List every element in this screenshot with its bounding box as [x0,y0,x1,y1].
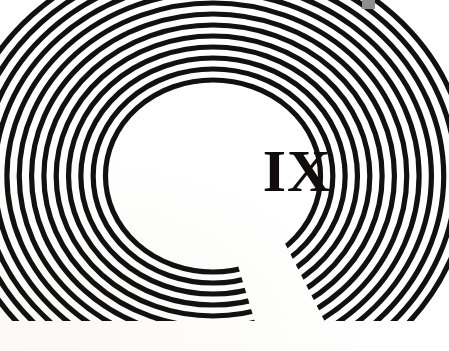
divider-page: IX [0,0,449,351]
scan-artifact-block [362,0,375,9]
concentric-arc-ornament [0,0,449,351]
